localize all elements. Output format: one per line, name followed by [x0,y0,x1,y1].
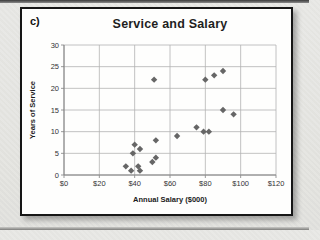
data-point [149,159,155,165]
data-point [153,154,159,160]
data-point [131,141,137,147]
x-tick-label: $40 [128,179,141,188]
y-tick-label: 25 [51,62,59,71]
data-point [123,163,129,169]
scan-edge-bottom [0,227,309,230]
scatter-chart: $0$20$40$60$80$100$120051015202530 [22,9,291,214]
x-tick-label: $60 [164,179,177,188]
page-background: { "figure_label": "c)", "chart_data": { … [0,0,309,230]
data-point [230,111,236,117]
data-point [206,128,212,134]
data-point [220,107,226,113]
data-point [130,150,136,156]
data-point [128,167,134,173]
x-axis-title: Annual Salary ($000) [64,195,276,204]
data-point [174,133,180,139]
y-axis-title: Years of Service [28,45,40,175]
data-point [153,137,159,143]
y-tick-label: 30 [51,41,59,50]
scan-edge-top [0,0,309,3]
x-tick-label: $120 [268,179,285,188]
y-tick-label: 15 [51,106,59,115]
x-tick-label: $0 [60,179,68,188]
data-point [137,146,143,152]
chart-card: c) Service and Salary $0$20$40$60$80$100… [20,7,293,216]
data-point [151,76,157,82]
data-point [220,68,226,74]
y-tick-label: 5 [55,149,59,158]
x-tick-label: $80 [199,179,212,188]
y-tick-label: 0 [55,171,59,180]
y-tick-label: 10 [51,127,59,136]
x-tick-label: $20 [93,179,106,188]
y-tick-label: 20 [51,84,59,93]
data-point [211,72,217,78]
data-point [202,76,208,82]
data-point [193,124,199,130]
x-tick-label: $100 [232,179,249,188]
